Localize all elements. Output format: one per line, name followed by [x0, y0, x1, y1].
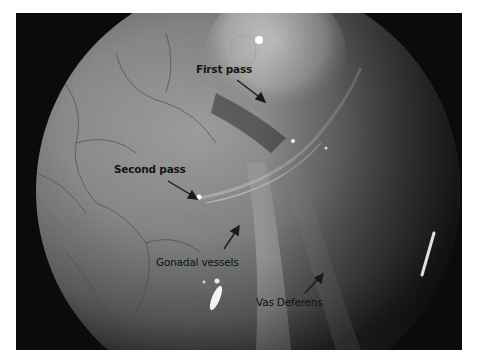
label-gonadal-vessels: Gonadal vessels: [156, 256, 238, 268]
label-first-pass: First pass: [196, 63, 252, 75]
label-vas-deferens: Vas Deferens: [256, 296, 323, 308]
laparoscopic-image: First pass Second pass Gonadal vessels V…: [16, 13, 462, 350]
label-second-pass: Second pass: [114, 163, 186, 175]
